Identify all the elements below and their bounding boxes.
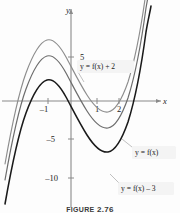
y-tick-label-neg5: –5 (46, 134, 56, 144)
x-axis-label: x (162, 96, 167, 106)
x-tick-label-2: 2 (117, 104, 121, 114)
figure-caption-word: FIGURE (66, 206, 94, 213)
graph-plot: –1 1 2 5 –5 –10 y x y = f(x) + 2 y = f (0, 0, 180, 213)
axes-group (2, 9, 161, 207)
callout-f-minus-3: y = f(x) – 3 (110, 174, 174, 195)
figure-container: –1 1 2 5 –5 –10 y x y = f(x) + 2 y = f (0, 0, 180, 213)
callout-f-plus-2: y = f(x) + 2 (77, 60, 134, 82)
y-tick-label-neg10: –10 (44, 173, 58, 183)
figure-caption: FIGURE 2.76 (0, 205, 180, 213)
figure-caption-number: 2.76 (97, 205, 114, 213)
curve-f-minus-3 (5, 6, 151, 204)
callout-label-f-plus-2: y = f(x) + 2 (80, 62, 115, 71)
callout-label-f-minus-3: y = f(x) – 3 (121, 184, 156, 193)
callout-label-f: y = f(x) (135, 148, 159, 157)
x-tick-label-neg1: –1 (39, 104, 49, 114)
x-axis-arrow-icon (156, 99, 161, 103)
callout-f: y = f(x) (122, 139, 176, 159)
curves-group (5, 0, 151, 204)
curve-f (5, 0, 151, 180)
y-axis-label: y (65, 5, 70, 15)
curve-f-plus-2 (5, 0, 151, 164)
